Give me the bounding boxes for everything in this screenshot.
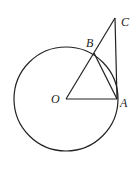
label-c: C (121, 15, 130, 29)
segment-ab (94, 53, 117, 99)
label-o: O (51, 92, 60, 106)
label-a: A (119, 96, 128, 110)
geometry-diagram: O A B C (0, 0, 138, 174)
segment-oc (66, 18, 115, 99)
label-b: B (86, 36, 94, 50)
